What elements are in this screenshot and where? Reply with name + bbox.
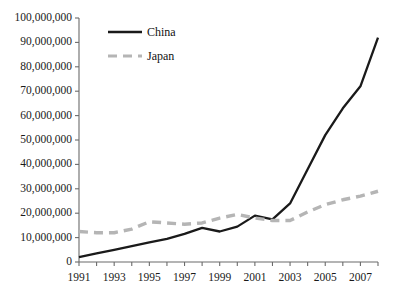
line-chart: 010,000,00020,000,00030,000,00040,000,00… [0,0,398,290]
x-axis-tick-label: 2005 [314,272,337,284]
legend-item-japan: Japan [108,44,238,68]
x-axis-tick-label: 2007 [349,272,372,284]
legend-item-china: China [108,20,238,44]
chart-legend: China Japan [108,20,238,68]
x-axis-tick-label: 2001 [243,272,266,284]
x-axis-tick-label: 1995 [138,272,161,284]
x-axis-tick-label: 1999 [208,272,231,284]
x-axis-tick-label: 1991 [68,272,91,284]
legend-line-swatch-japan [108,50,142,62]
x-axis-tick-label: 1993 [103,272,126,284]
legend-label-china: China [147,26,176,38]
legend-line-swatch-china [108,26,142,38]
x-axis-tick-label: 1997 [173,272,196,284]
legend-label-japan: Japan [147,50,174,62]
x-axis-tick-label: 2003 [279,272,302,284]
